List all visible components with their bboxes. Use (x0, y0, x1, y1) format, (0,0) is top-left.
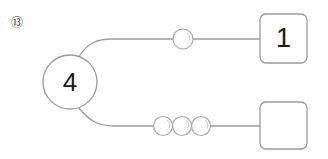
top-box-value: 1 (260, 22, 307, 54)
bottom-bead-icon-2 (173, 117, 192, 136)
bottom-bead-icon-1 (154, 117, 173, 136)
top-bead-icon (173, 29, 193, 49)
source-circle-value: 4 (43, 66, 97, 98)
bottom-target-box-answer[interactable] (260, 102, 307, 149)
top-branch-line (78, 39, 260, 58)
bottom-bead-icon-3 (192, 117, 211, 136)
